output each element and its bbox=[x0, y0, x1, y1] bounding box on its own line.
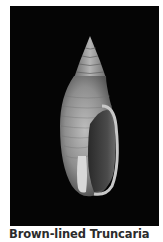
shell-illustration bbox=[10, 6, 159, 226]
shell-photo bbox=[10, 6, 159, 226]
figure-caption: Brown-lined Truncaria bbox=[9, 227, 150, 241]
